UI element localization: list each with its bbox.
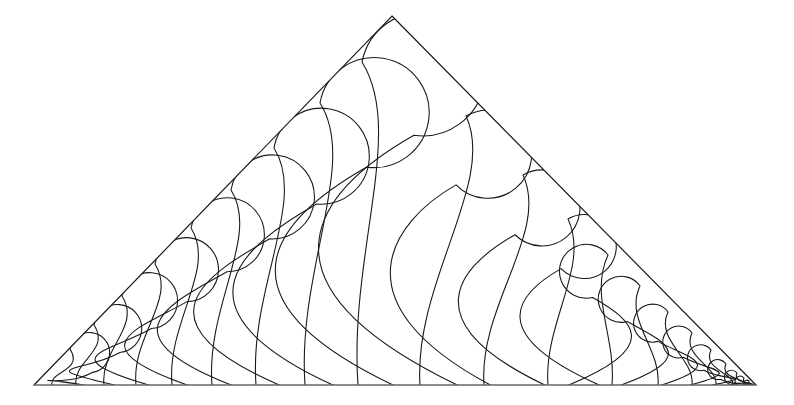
figure-canvas: Nested teardrop tiling inside an isoscel… (0, 0, 794, 405)
teardrop-triangle-figure: Nested teardrop tiling inside an isoscel… (0, 0, 794, 405)
outer-triangle-layer (34, 16, 756, 385)
outer-triangle (34, 16, 756, 385)
